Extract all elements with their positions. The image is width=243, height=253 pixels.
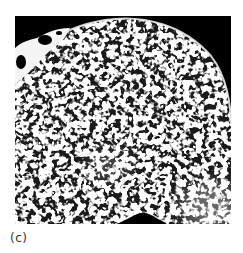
bone-micrograph <box>15 16 231 224</box>
panel-label: (c) <box>10 231 27 245</box>
trabecular-bone-image <box>15 16 231 224</box>
